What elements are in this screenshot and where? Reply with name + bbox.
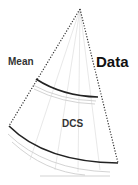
fan-diagram: Mean Data DCS [0, 0, 138, 185]
dcs-label: DCS [62, 119, 83, 129]
fan-sector-graphic [0, 0, 138, 185]
data-label: Data [96, 54, 129, 69]
mean-label: Mean [8, 57, 34, 67]
lower-arc [9, 126, 118, 163]
